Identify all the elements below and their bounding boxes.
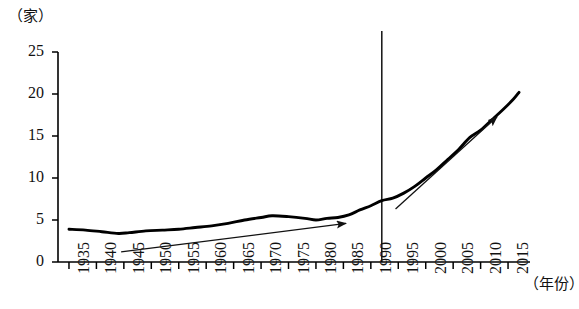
y-tick-label: 0 (10, 252, 44, 270)
x-tick-label: 1985 (349, 242, 367, 274)
x-tick-label: 1965 (240, 242, 258, 274)
x-tick-label: 2015 (514, 242, 532, 274)
data-series-line (69, 92, 519, 233)
y-axis-ticks (52, 52, 58, 262)
x-tick-label: 1960 (212, 242, 230, 274)
y-tick-label: 5 (10, 210, 44, 228)
y-tick-label: 10 (10, 168, 44, 186)
x-tick-label: 1950 (157, 242, 175, 274)
x-tick-label: 2010 (487, 242, 505, 274)
y-tick-label: 20 (10, 84, 44, 102)
y-tick-label: 25 (10, 42, 44, 60)
x-tick-label: 1940 (102, 242, 120, 274)
x-tick-label: 1945 (130, 242, 148, 274)
x-tick-label: 1990 (377, 242, 395, 274)
x-tick-label: 1955 (185, 242, 203, 274)
trend-arrows (121, 117, 497, 252)
x-tick-label: 1935 (75, 242, 93, 274)
x-tick-label: 1980 (322, 242, 340, 274)
x-tick-label: 2005 (459, 242, 477, 274)
x-tick-label: 2000 (432, 242, 450, 274)
y-axis-unit-label: （家） (8, 4, 53, 25)
x-tick-label: 1975 (295, 242, 313, 274)
trend-arrow-right (396, 117, 498, 209)
x-axis-unit-label: （年份） (524, 272, 579, 293)
y-tick-label: 15 (10, 126, 44, 144)
x-tick-label: 1995 (404, 242, 422, 274)
x-tick-label: 1970 (267, 242, 285, 274)
